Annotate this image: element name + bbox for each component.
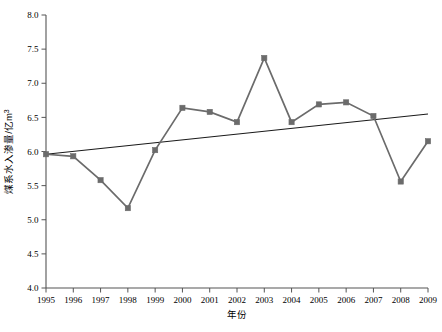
y-axis-tick-label: 7.0	[27, 78, 39, 88]
data-point-marker	[344, 100, 349, 105]
y-axis-tick-label: 5.0	[27, 215, 39, 225]
y-axis-tick-label: 6.0	[27, 147, 39, 157]
data-point-marker	[207, 109, 212, 114]
x-axis-tick-label: 2003	[255, 295, 274, 305]
x-axis-tick-label: 2001	[201, 295, 219, 305]
x-axis-tick-label: 2009	[419, 295, 438, 305]
y-axis-tick-label: 4.5	[27, 249, 39, 259]
data-point-marker	[71, 154, 76, 159]
data-point-marker	[125, 206, 130, 211]
data-point-marker	[289, 120, 294, 125]
y-axis-tick-label: 4.0	[27, 283, 39, 293]
x-axis-tick-label: 2007	[364, 295, 383, 305]
y-axis-tick-label: 5.5	[27, 181, 39, 191]
x-axis-tick-label: 2008	[392, 295, 411, 305]
x-axis-title: 年份	[227, 309, 247, 320]
x-axis-tick-label: 1996	[64, 295, 83, 305]
data-point-marker	[43, 152, 48, 157]
x-axis-tick-label: 1997	[92, 295, 111, 305]
y-axis-tick-label: 7.5	[27, 44, 39, 54]
x-axis-tick-label: 2000	[173, 295, 192, 305]
series-polyline	[46, 58, 428, 208]
data-point-marker	[371, 113, 376, 118]
x-axis-tick-label: 1998	[119, 295, 138, 305]
data-point-marker	[234, 120, 239, 125]
data-point-marker	[262, 55, 267, 60]
x-axis: 1995199619971998199920002001200220032004…	[37, 288, 438, 305]
data-point-marker	[425, 139, 430, 144]
data-point-marker	[153, 148, 158, 153]
y-axis-tick-label: 8.0	[27, 10, 39, 20]
x-axis-tick-label: 1999	[146, 295, 165, 305]
data-point-marker	[398, 179, 403, 184]
x-axis-tick-label: 2005	[310, 295, 329, 305]
y-axis-title: 煤系水入渗量/亿m3	[3, 109, 15, 194]
data-point-marker	[98, 178, 103, 183]
y-axis-title-text: 煤系水入渗量/亿m	[3, 113, 14, 194]
line-chart: 4.04.55.05.56.06.57.07.58.0 199519961997…	[0, 0, 442, 332]
data-point-marker	[180, 105, 185, 110]
x-axis-tick-label: 1995	[37, 295, 56, 305]
chart-container: 4.04.55.05.56.06.57.07.58.0 199519961997…	[0, 0, 442, 332]
data-series-group	[43, 55, 430, 210]
y-axis-tick-label: 6.5	[27, 113, 39, 123]
y-axis-title-exponent: 3	[3, 109, 10, 113]
data-point-marker	[316, 102, 321, 107]
x-axis-tick-label: 2002	[228, 295, 246, 305]
x-axis-tick-label: 2006	[337, 295, 356, 305]
x-axis-tick-label: 2004	[283, 295, 302, 305]
